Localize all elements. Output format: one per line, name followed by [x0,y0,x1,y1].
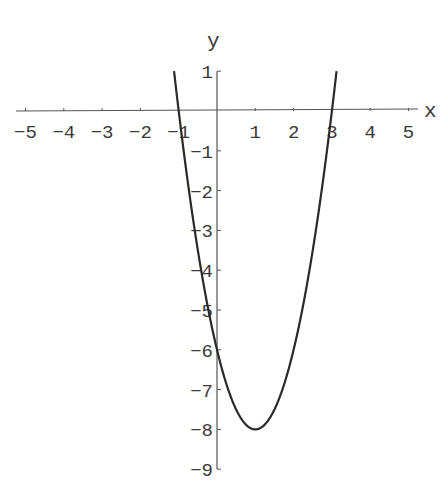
x-tick-label: −5 [14,122,37,144]
y-tick-label: −7 [190,381,213,403]
x-tick-label: −2 [129,122,152,144]
x-axis-ticks: −5−4−3−2−112345 [14,108,414,144]
y-tick-label: 1 [202,62,213,84]
y-tick-label: −8 [190,420,213,442]
x-tick-label: 1 [250,122,261,144]
x-tick-label: −1 [167,122,190,144]
y-tick-label: −6 [190,341,213,363]
y-axis-ticks: 1−1−2−3−4−5−6−7−8−9 [190,62,221,482]
x-tick-label: 2 [288,122,299,144]
y-axis-label: y [207,30,220,53]
x-axis-label: x [424,100,437,123]
y-tick-label: −2 [190,182,213,204]
y-tick-label: −9 [190,460,213,482]
y-tick-label: −1 [190,142,213,164]
function-plot: −5−4−3−2−112345 1−1−2−3−4−5−6−7−8−9 x y [0,0,448,485]
x-tick-label: 4 [364,122,375,144]
x-tick-label: −3 [91,122,114,144]
x-tick-label: 5 [403,122,414,144]
x-tick-label: −4 [52,122,75,144]
